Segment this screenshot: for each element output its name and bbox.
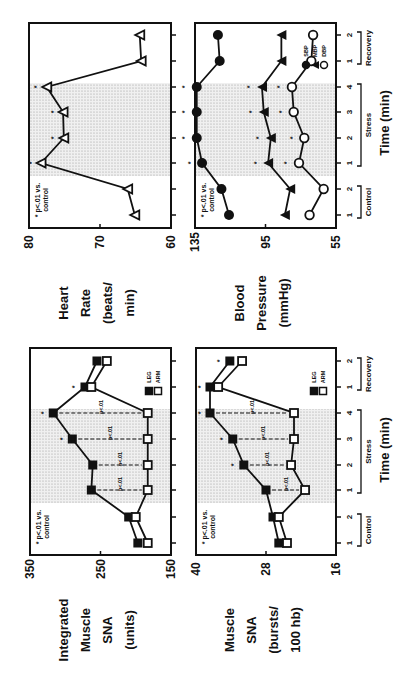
- y-axis-label: Muscle: [222, 608, 237, 652]
- legend-label: LEG: [146, 371, 152, 382]
- marker-open-square: [144, 486, 152, 494]
- marker-open-square: [290, 409, 298, 417]
- pair-significance: p<.01: [117, 452, 123, 466]
- y-tick-label: 28: [259, 562, 273, 576]
- pair-significance: p<.01: [98, 400, 104, 414]
- asterisk: *: [230, 463, 237, 466]
- pair-significance: p<.01: [117, 477, 123, 491]
- asterisk: *: [50, 110, 57, 113]
- group-label: Stress: [364, 112, 373, 137]
- marker-filled-square: [206, 409, 215, 418]
- significance-note: control: [208, 188, 215, 212]
- y-axis-label: (units): [122, 610, 137, 650]
- asterisk: *: [197, 385, 204, 388]
- pair-significance: p<.01: [264, 452, 270, 466]
- y-axis-label: Pressure: [254, 275, 269, 331]
- figure: 350250150IntegratedMuscleSNA(units)* p<.…: [0, 0, 400, 676]
- marker-open-circle: [288, 83, 297, 92]
- y-axis-label: SNA: [100, 616, 115, 644]
- asterisk: *: [40, 411, 47, 414]
- asterisk: *: [187, 161, 194, 164]
- marker-filled-square: [206, 383, 215, 392]
- group-label: Recovery: [364, 29, 373, 66]
- marker-open-square: [144, 461, 152, 469]
- asterisk: *: [33, 85, 40, 88]
- marker-open-circle: [300, 134, 309, 143]
- legend-label: MBP: [312, 45, 318, 58]
- group-bracket: [357, 32, 361, 64]
- asterisk: *: [181, 110, 188, 113]
- time-tick-label: 1: [345, 212, 354, 217]
- y-tick-label: 60: [164, 235, 178, 249]
- y-tick-label: 80: [22, 235, 36, 249]
- significance-note: control: [42, 188, 49, 212]
- marker-open-square: [144, 539, 152, 547]
- time-tick-label: 2: [345, 358, 354, 363]
- pair-significance: p<.01: [260, 426, 266, 440]
- marker-open-square: [287, 461, 295, 469]
- asterisk: *: [276, 85, 283, 88]
- asterisk: *: [246, 85, 253, 88]
- y-tick-label: 95: [259, 235, 273, 249]
- significance-note: * p<.01 vs.: [35, 510, 43, 544]
- marker-filled-circle: [192, 82, 202, 92]
- marker-open-square: [275, 513, 283, 521]
- marker-open-square: [132, 513, 140, 521]
- group-bracket: [357, 514, 361, 546]
- asterisk: *: [289, 136, 296, 139]
- significance-note: * p<.01 vs.: [201, 510, 209, 544]
- time-tick-label: 3: [345, 109, 354, 114]
- marker-filled-square: [228, 435, 237, 444]
- marker-filled-circle: [216, 184, 226, 194]
- marker-open-square: [144, 409, 152, 417]
- time-tick-label: 4: [345, 84, 354, 89]
- y-tick-label: 150: [164, 559, 178, 579]
- msna-panel: [196, 348, 361, 555]
- marker-filled-circle: [197, 158, 207, 168]
- group-label: Recovery: [364, 355, 373, 392]
- y-axis-label: Heart: [56, 286, 71, 320]
- y-axis-label: 100 hb): [288, 607, 303, 653]
- marker-open-circle: [319, 185, 328, 194]
- y-axis-label: (beats/: [100, 282, 115, 324]
- group-bracket: [357, 358, 361, 390]
- marker-filled-square: [239, 461, 248, 470]
- marker-open-circle: [309, 31, 318, 40]
- marker-open-square: [301, 486, 309, 494]
- asterisk: *: [253, 161, 260, 164]
- y-axis-label: Muscle: [78, 608, 93, 652]
- y-axis-label: min): [122, 289, 137, 316]
- time-tick-label: 2: [345, 186, 354, 191]
- marker-open-square: [87, 383, 95, 391]
- marker-open-square: [283, 539, 291, 547]
- group-bracket: [357, 410, 361, 493]
- asterisk: *: [59, 437, 66, 440]
- marker-open-square: [103, 357, 111, 365]
- marker-open-triangle: [135, 31, 144, 40]
- legend-label: LEG: [311, 371, 317, 382]
- asterisk: *: [197, 411, 204, 414]
- y-tick-label: 55: [329, 235, 343, 249]
- marker-open-square: [144, 435, 152, 443]
- asterisk: *: [71, 385, 78, 388]
- asterisk: *: [181, 136, 188, 139]
- marker-open-circle: [305, 211, 314, 220]
- legend-label: SBP: [303, 45, 309, 57]
- pair-significance: p<.01: [107, 426, 113, 440]
- asterisk: *: [255, 136, 262, 139]
- marker-filled-circle: [192, 133, 202, 143]
- time-tick-label: 1: [345, 384, 354, 389]
- y-tick-label: 40: [189, 562, 203, 576]
- asterisk: *: [181, 85, 188, 88]
- marker-open-triangle: [123, 185, 132, 194]
- y-tick-label: 350: [23, 559, 37, 579]
- marker-filled-square: [274, 539, 283, 548]
- marker-filled-square: [133, 539, 142, 548]
- marker-open-square: [290, 435, 298, 443]
- group-label: Control: [364, 188, 373, 216]
- marker-filled-square: [87, 486, 96, 495]
- group-label: Control: [364, 516, 373, 544]
- asterisk: *: [248, 110, 255, 113]
- y-tick-label: 250: [94, 559, 108, 579]
- y-axis-label: Blood: [232, 285, 247, 322]
